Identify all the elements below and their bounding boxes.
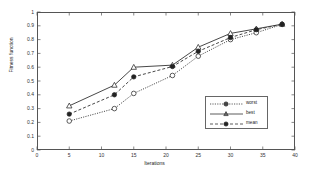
data-point-worst xyxy=(112,106,117,111)
y-tick-label: 0.2 xyxy=(13,120,34,125)
x-tick-label: 10 xyxy=(92,153,112,158)
x-tick-label: 30 xyxy=(221,153,241,158)
x-tick-label: 15 xyxy=(124,153,144,158)
x-tick-label: 0 xyxy=(27,153,47,158)
data-point-worst xyxy=(67,119,72,124)
data-point-mean xyxy=(67,112,71,116)
data-point-worst xyxy=(131,91,136,96)
legend-label-worst: worst xyxy=(246,101,257,106)
legend-item-mean: mean xyxy=(209,119,266,129)
y-tick-label: 0.5 xyxy=(13,79,34,84)
y-tick-label: 1 xyxy=(13,10,34,15)
x-tick-label: 35 xyxy=(253,153,273,158)
legend-sample-mean xyxy=(209,119,244,129)
data-point-mean xyxy=(112,93,116,97)
legend-label-best: best xyxy=(246,111,255,116)
data-point-worst xyxy=(170,73,175,78)
x-tick-label: 40 xyxy=(285,153,305,158)
y-tick-label: 0.9 xyxy=(13,23,34,28)
legend: worst best mean xyxy=(205,96,268,129)
legend-item-worst: worst xyxy=(209,99,266,109)
y-tick-label: 0.4 xyxy=(13,92,34,97)
data-point-mean xyxy=(132,75,136,79)
x-tick-label: 25 xyxy=(188,153,208,158)
y-tick-label: 0.3 xyxy=(13,106,34,111)
data-point-mean xyxy=(196,49,200,53)
data-point-worst xyxy=(196,54,201,59)
y-tick-label: 0.1 xyxy=(13,134,34,139)
legend-sample-best xyxy=(209,109,244,119)
data-point-mean xyxy=(170,64,174,68)
x-tick-label: 20 xyxy=(156,153,176,158)
legend-label-mean: mean xyxy=(246,121,258,126)
y-tick-label: 0.7 xyxy=(13,51,34,56)
y-tick-label: 0 xyxy=(13,148,34,153)
chart-canvas xyxy=(0,0,309,177)
data-point-best xyxy=(67,103,72,108)
x-tick-label: 5 xyxy=(59,153,79,158)
legend-item-best: best xyxy=(209,109,266,119)
data-point-mean xyxy=(254,27,258,31)
y-tick-label: 0.6 xyxy=(13,65,34,70)
chart-figure: Fitness function Iterations worst best m… xyxy=(0,0,309,177)
x-axis-title: Iterations xyxy=(0,160,309,166)
data-point-mean xyxy=(280,22,284,26)
y-tick-label: 0.8 xyxy=(13,37,34,42)
legend-sample-worst xyxy=(209,99,244,109)
series-line-best xyxy=(69,24,282,106)
data-point-mean xyxy=(228,35,232,39)
